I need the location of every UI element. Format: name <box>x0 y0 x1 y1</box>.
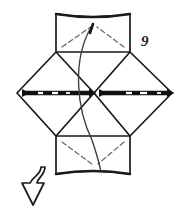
top-flap-rectangle <box>56 14 130 52</box>
top-flap-outline <box>56 14 130 52</box>
top-flap-bowed-edge <box>56 14 130 17</box>
origami-figure-panel: 9 <box>0 0 187 212</box>
top-flap-creases <box>62 26 124 47</box>
bottom-flap-bowed-edge <box>56 171 130 174</box>
origami-diagram-svg <box>0 0 187 212</box>
bottom-flap-creases <box>62 142 124 164</box>
curved-down-arrow-icon <box>22 167 45 205</box>
top-crease-left <box>62 26 92 47</box>
bottom-crease-right <box>98 142 124 164</box>
bottom-crease-left <box>62 142 92 164</box>
center-curve-tip <box>90 24 93 33</box>
top-crease-right <box>97 27 124 47</box>
step-number-label: 9 <box>141 34 149 49</box>
curved-down-arrow-body <box>22 167 45 205</box>
